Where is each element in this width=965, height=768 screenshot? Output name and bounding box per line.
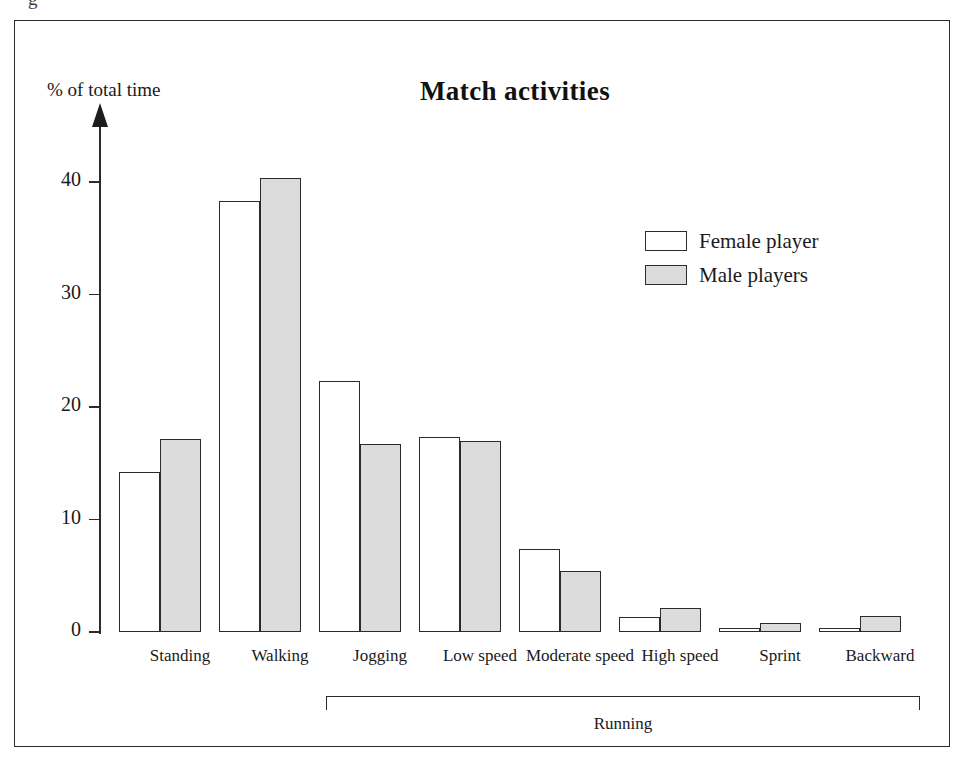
bar-sprint-male <box>760 623 801 632</box>
bar-jogging-female <box>319 381 360 632</box>
chart-plot-area: % of total time Match activities 0102030… <box>15 21 951 748</box>
legend-swatch-female-icon <box>645 231 687 251</box>
running-group-bracket <box>326 696 920 710</box>
bar-jogging-male <box>360 444 401 632</box>
bar-moderate-speed-male <box>560 571 601 632</box>
y-tick-20 <box>89 406 101 408</box>
chart-title: Match activities <box>315 76 715 107</box>
bar-walking-male <box>260 178 301 633</box>
bar-sprint-female <box>719 628 760 632</box>
bar-standing-female <box>119 472 160 632</box>
y-tick-label-40: 40 <box>33 168 81 191</box>
x-label-backward: Backward <box>800 646 960 666</box>
y-tick-40 <box>89 181 101 183</box>
chart-legend: Female player Male players <box>645 224 819 292</box>
bar-walking-female <box>219 201 260 632</box>
y-tick-10 <box>89 519 101 521</box>
legend-label-male: Male players <box>699 263 808 288</box>
y-tick-0 <box>89 631 101 633</box>
figure-frame: % of total time Match activities 0102030… <box>14 20 950 747</box>
y-tick-label-10: 10 <box>33 506 81 529</box>
bar-moderate-speed-female <box>519 549 560 632</box>
y-tick-label-30: 30 <box>33 281 81 304</box>
y-axis-arrow-icon <box>92 103 108 127</box>
y-tick-label-0: 0 <box>33 618 81 641</box>
bar-standing-male <box>160 439 201 633</box>
bar-high-speed-male <box>660 608 701 632</box>
y-tick-30 <box>89 294 101 296</box>
legend-item-male: Male players <box>645 258 819 292</box>
bar-backward-male <box>860 616 901 632</box>
cut-off-text-remnant: g <box>28 0 39 10</box>
bar-low-speed-female <box>419 437 460 632</box>
bar-low-speed-male <box>460 441 501 632</box>
y-axis-title: % of total time <box>47 79 160 101</box>
legend-swatch-male-icon <box>645 265 687 285</box>
legend-item-female: Female player <box>645 224 819 258</box>
y-axis-line <box>99 123 101 634</box>
bar-high-speed-female <box>619 617 660 632</box>
running-group-label: Running <box>326 714 920 734</box>
bar-backward-female <box>819 628 860 632</box>
y-tick-label-20: 20 <box>33 393 81 416</box>
legend-label-female: Female player <box>699 229 819 254</box>
